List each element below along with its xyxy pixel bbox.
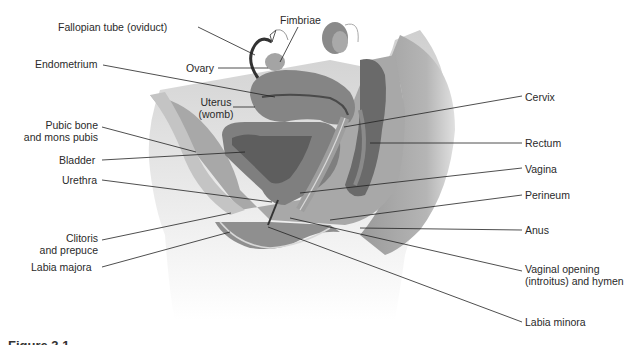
label-labia-majora: Labia majora (31, 261, 92, 273)
label-vaginal-opening: Vaginal opening (introitus) and hymen (525, 263, 624, 287)
label-urethra: Urethra (62, 174, 97, 186)
label-anus: Anus (525, 224, 549, 236)
anatomy-diagram: Fallopian tube (oviduct) Ovary Endometri… (0, 0, 640, 345)
label-cervix: Cervix (525, 91, 555, 103)
label-vagina: Vagina (525, 163, 557, 175)
label-ovary: Ovary (186, 62, 214, 74)
label-fimbriae: Fimbriae (280, 14, 321, 26)
label-fallopian-tube: Fallopian tube (oviduct) (58, 21, 167, 33)
label-uterus: Uterus (womb) (198, 96, 234, 120)
label-clitoris: Clitoris and prepuce (36, 232, 98, 256)
label-perineum: Perineum (525, 189, 570, 201)
figure-caption: Figure 3.1 (8, 339, 69, 345)
label-endometrium: Endometrium (35, 58, 97, 70)
label-rectum: Rectum (525, 137, 561, 149)
label-pubic-bone: Pubic bone and mons pubis (22, 119, 98, 143)
label-labia-minora: Labia minora (525, 316, 586, 328)
label-bladder: Bladder (59, 154, 95, 166)
